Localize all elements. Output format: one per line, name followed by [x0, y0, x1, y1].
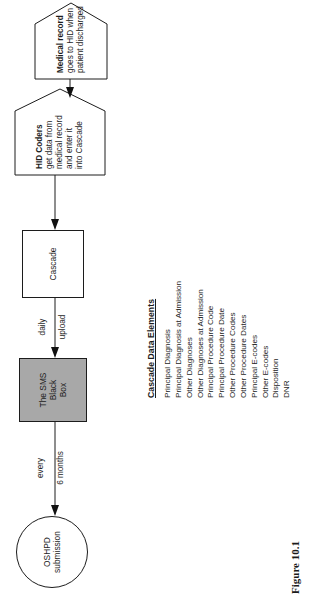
cascade-data-elements-block: Cascade Data Elements Principal Diagnosi… [146, 281, 293, 398]
connector-hid-coders-to-cascade [48, 174, 62, 230]
node-cascade: Cascade [22, 230, 84, 298]
node-oshpd-submission: OSHPD submission [16, 516, 88, 588]
node-sms-line2: Black [48, 380, 58, 400]
edge-label-every-6-months-line1: every [36, 430, 46, 506]
medical-record-text: Medical record goes to HID when patient … [34, 2, 108, 80]
node-oshpd-line2: submission [52, 531, 62, 573]
list-item: Principal Procedure Code [206, 281, 217, 398]
cascade-data-elements-list: Principal Diagnosis Principal Diagnosis … [163, 281, 293, 398]
hid-coders-text: HID Coders get data from medical record … [14, 88, 106, 176]
figure-stage: OSHPD submission every 6 months The SMS … [0, 0, 328, 610]
edge-label-daily-upload-line2: upload [58, 302, 68, 352]
list-item: Other Procedure Codes [228, 281, 239, 398]
list-item: DNR [282, 281, 293, 398]
medical-record-line2: patient discharged [76, 6, 86, 73]
list-item: Principal Diagnosis at Admission [174, 281, 185, 398]
edge-label-daily-upload: daily upload [28, 302, 78, 352]
figure-canvas: OSHPD submission every 6 months The SMS … [0, 0, 328, 610]
figure-caption: Figure 10.1 [289, 541, 301, 594]
hid-coders-title: HID Coders [35, 124, 45, 169]
node-cascade-label: Cascade [48, 247, 58, 280]
cascade-data-elements-title: Cascade Data Elements [146, 281, 156, 398]
medical-record-title: Medical record [56, 15, 66, 73]
edge-label-every-6-months-line2: 6 months [56, 430, 66, 506]
list-item: Other Procedure Dates [239, 281, 250, 398]
node-hid-coders: HID Coders get data from medical record … [14, 88, 106, 176]
list-item: Other Diagnoses at Admission [196, 281, 207, 398]
list-item: Principal E-codes [250, 281, 261, 398]
node-oshpd-line1: OSHPD [42, 537, 52, 567]
list-item: Disposition [271, 281, 282, 398]
list-item: Other E-codes [261, 281, 272, 398]
list-item: Principal Procedure Date [217, 281, 228, 398]
hid-coders-line3: and enter it [65, 128, 75, 169]
node-sms-line1: The SMS [38, 373, 48, 408]
node-medical-record: Medical record goes to HID when patient … [34, 2, 108, 80]
hid-coders-line1: get data from [45, 121, 55, 169]
hid-coders-line2: medical record [55, 115, 65, 169]
edge-label-every-6-months: every 6 months [26, 430, 76, 506]
list-item: Other Diagnoses [185, 281, 196, 398]
node-sms-line3: Box [58, 383, 68, 397]
hid-coders-line4: into Cascade [75, 121, 85, 169]
node-sms-black-box: The SMS Black Box [19, 358, 87, 422]
list-item: Principal Diagnosis [163, 281, 174, 398]
medical-record-line1: goes to HID when [66, 8, 76, 73]
edge-label-daily-upload-line1: daily [38, 302, 48, 352]
